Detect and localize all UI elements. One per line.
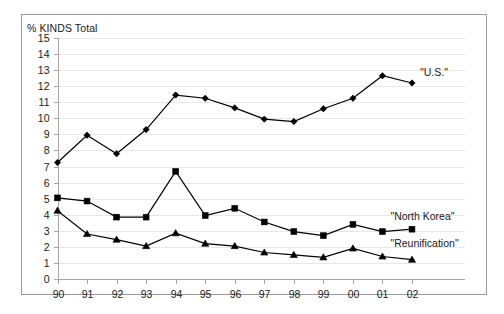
data-point-marker [202, 95, 208, 101]
data-point-marker [84, 198, 90, 204]
x-axis-tick-label: 00 [348, 288, 360, 300]
data-point-marker [350, 221, 356, 227]
x-axis-tick-label: 91 [82, 288, 94, 300]
x-axis-tick-label: 97 [259, 288, 271, 300]
data-point-marker [232, 205, 238, 211]
x-axis-tick-label: 92 [112, 288, 124, 300]
series-annotations: "U.S.""North Korea""Reunification" [390, 66, 458, 249]
x-axis-tick-label: 98 [289, 288, 301, 300]
data-point-marker [380, 229, 386, 235]
y-axis-tick-label: 1 [44, 257, 50, 269]
series-label-1: "U.S." [420, 66, 448, 78]
y-axis-tick-label: 12 [38, 80, 50, 92]
y-axis-tick-label: 4 [44, 209, 50, 221]
data-point-marker [409, 80, 415, 86]
y-axis-tick-label: 2 [44, 241, 50, 253]
y-axis-tick-label: 15 [38, 32, 50, 44]
series-line [58, 76, 413, 163]
series-label-2: "North Korea" [390, 210, 454, 222]
series-line [58, 211, 413, 260]
data-point-marker [261, 219, 267, 225]
x-axis-tick-label: 95 [200, 288, 212, 300]
data-point-marker [320, 105, 326, 111]
x-axis-tick-label: 90 [53, 288, 65, 300]
x-axis-tick-label: 01 [377, 288, 389, 300]
x-axis-tick-labels: 90919293949596979899000102 [53, 288, 419, 300]
series-2 [55, 168, 415, 238]
chart-container: % KINDS Total 0123456789101112131415 909… [0, 0, 504, 314]
x-axis-tick-label: 96 [230, 288, 242, 300]
y-axis-tick-label: 0 [44, 273, 50, 285]
data-point-marker [320, 233, 326, 239]
x-axis-tick-label: 93 [141, 288, 153, 300]
data-point-marker [202, 213, 208, 219]
data-point-marker [291, 229, 297, 235]
y-axis-tick-label: 3 [44, 225, 50, 237]
data-point-marker [114, 214, 120, 220]
y-axis-tick-label: 13 [38, 64, 50, 76]
y-axis-tick-label: 8 [44, 144, 50, 156]
data-point-marker [55, 195, 61, 201]
y-axis-tick-label: 7 [44, 161, 50, 173]
y-axis-tick-label: 14 [38, 48, 50, 60]
y-axis-tick-label: 6 [44, 177, 50, 189]
line-chart-plot: 0123456789101112131415 90919293949596979… [0, 0, 504, 314]
x-axis-tick-label: 02 [407, 288, 419, 300]
data-point-marker [261, 116, 267, 122]
data-point-marker [143, 214, 149, 220]
series-label-3: "Reunification" [390, 237, 458, 249]
series-line [58, 171, 413, 235]
x-axis-tick-label: 94 [171, 288, 183, 300]
data-point-marker [172, 230, 179, 236]
data-point-marker [54, 207, 61, 213]
y-axis-tick-label: 9 [44, 128, 50, 140]
data-point-marker [232, 105, 238, 111]
y-axis-tick-labels: 0123456789101112131415 [38, 32, 50, 285]
y-axis-tick-label: 11 [39, 96, 50, 108]
y-axis-tick-label: 10 [38, 112, 50, 124]
x-axis-tick-label: 99 [318, 288, 330, 300]
data-point-marker [173, 168, 179, 174]
y-axis-tick-label: 5 [44, 193, 50, 205]
data-point-marker [409, 226, 415, 232]
data-point-marker [291, 118, 297, 124]
